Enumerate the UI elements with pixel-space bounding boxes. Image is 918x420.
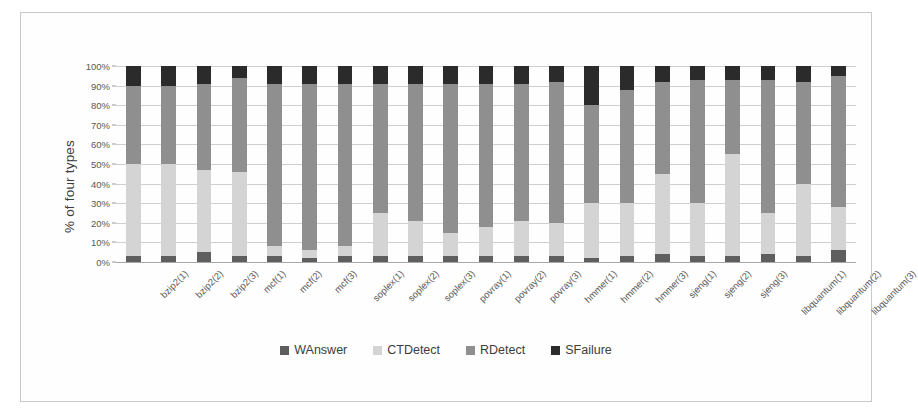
bar-segment-CTDetect[interactable] (796, 184, 811, 257)
bar-segment-CTDetect[interactable] (514, 221, 529, 256)
bar-povray(2)[interactable] (479, 66, 494, 262)
bar-segment-SFailure[interactable] (690, 66, 705, 80)
bar-segment-CTDetect[interactable] (655, 174, 670, 254)
bar-segment-SFailure[interactable] (197, 66, 212, 84)
legend-item-SFailure[interactable]: SFailure (551, 343, 612, 357)
bar-segment-CTDetect[interactable] (620, 203, 635, 256)
bar-povray(3)[interactable] (514, 66, 529, 262)
bar-segment-SFailure[interactable] (267, 66, 282, 84)
bar-segment-WAnswer[interactable] (267, 256, 282, 262)
bar-segment-RDetect[interactable] (408, 84, 423, 221)
bar-segment-CTDetect[interactable] (161, 164, 176, 256)
bar-segment-WAnswer[interactable] (655, 254, 670, 262)
bar-segment-SFailure[interactable] (126, 66, 141, 86)
bar-segment-WAnswer[interactable] (549, 256, 564, 262)
bar-segment-SFailure[interactable] (302, 66, 317, 84)
bar-segment-SFailure[interactable] (796, 66, 811, 82)
bar-segment-CTDetect[interactable] (725, 154, 740, 256)
bar-segment-SFailure[interactable] (161, 66, 176, 86)
bar-povray(1)[interactable] (443, 66, 458, 262)
bar-segment-SFailure[interactable] (584, 66, 599, 105)
bar-segment-CTDetect[interactable] (338, 246, 353, 256)
bar-libquantum(3)[interactable] (831, 66, 846, 262)
bar-segment-WAnswer[interactable] (514, 256, 529, 262)
bar-segment-WAnswer[interactable] (302, 258, 317, 262)
bar-segment-CTDetect[interactable] (267, 246, 282, 256)
bar-segment-RDetect[interactable] (197, 84, 212, 170)
bar-segment-SFailure[interactable] (443, 66, 458, 84)
bar-segment-RDetect[interactable] (655, 82, 670, 174)
bar-hmmer(1)[interactable] (549, 66, 564, 262)
bar-sjeng(2)[interactable] (690, 66, 705, 262)
legend-item-RDetect[interactable]: RDetect (466, 343, 525, 357)
bar-segment-WAnswer[interactable] (831, 250, 846, 262)
bar-segment-RDetect[interactable] (126, 86, 141, 164)
bar-segment-WAnswer[interactable] (725, 256, 740, 262)
bar-soplex(3)[interactable] (408, 66, 423, 262)
bar-segment-WAnswer[interactable] (338, 256, 353, 262)
bar-segment-WAnswer[interactable] (761, 254, 776, 262)
bar-segment-RDetect[interactable] (373, 84, 388, 213)
bar-soplex(1)[interactable] (338, 66, 353, 262)
bar-segment-WAnswer[interactable] (620, 256, 635, 262)
bar-segment-WAnswer[interactable] (796, 256, 811, 262)
bar-segment-RDetect[interactable] (831, 76, 846, 207)
bar-segment-RDetect[interactable] (796, 82, 811, 184)
bar-segment-RDetect[interactable] (549, 82, 564, 223)
bar-segment-RDetect[interactable] (302, 84, 317, 251)
bar-segment-SFailure[interactable] (338, 66, 353, 84)
bar-segment-WAnswer[interactable] (197, 252, 212, 262)
bar-segment-WAnswer[interactable] (161, 256, 176, 262)
bar-bzip2(2)[interactable] (161, 66, 176, 262)
legend-item-CTDetect[interactable]: CTDetect (373, 343, 440, 357)
legend-item-WAnswer[interactable]: WAnswer (280, 343, 347, 357)
bar-hmmer(2)[interactable] (584, 66, 599, 262)
bar-segment-CTDetect[interactable] (408, 221, 423, 256)
bar-sjeng(1)[interactable] (655, 66, 670, 262)
bar-segment-WAnswer[interactable] (443, 256, 458, 262)
bar-segment-WAnswer[interactable] (126, 256, 141, 262)
bar-segment-CTDetect[interactable] (126, 164, 141, 256)
bar-segment-CTDetect[interactable] (197, 170, 212, 252)
bar-segment-RDetect[interactable] (232, 78, 247, 172)
bar-segment-CTDetect[interactable] (479, 227, 494, 256)
bar-sjeng(3)[interactable] (725, 66, 740, 262)
bar-segment-CTDetect[interactable] (373, 213, 388, 256)
bar-segment-WAnswer[interactable] (690, 256, 705, 262)
bar-segment-SFailure[interactable] (620, 66, 635, 90)
bar-segment-SFailure[interactable] (655, 66, 670, 82)
bar-segment-RDetect[interactable] (479, 84, 494, 227)
bar-segment-WAnswer[interactable] (584, 258, 599, 262)
bar-segment-SFailure[interactable] (479, 66, 494, 84)
bar-segment-RDetect[interactable] (690, 80, 705, 203)
bar-segment-RDetect[interactable] (338, 84, 353, 247)
bar-segment-SFailure[interactable] (232, 66, 247, 78)
bar-segment-RDetect[interactable] (761, 80, 776, 213)
bar-segment-RDetect[interactable] (584, 105, 599, 203)
bar-segment-WAnswer[interactable] (232, 256, 247, 262)
bar-segment-CTDetect[interactable] (232, 172, 247, 256)
bar-segment-CTDetect[interactable] (302, 250, 317, 258)
bar-segment-RDetect[interactable] (267, 84, 282, 247)
bar-segment-CTDetect[interactable] (831, 207, 846, 250)
bar-segment-SFailure[interactable] (514, 66, 529, 84)
bar-segment-CTDetect[interactable] (761, 213, 776, 254)
bar-mcf(2)[interactable] (267, 66, 282, 262)
bar-segment-SFailure[interactable] (831, 66, 846, 76)
bar-segment-RDetect[interactable] (443, 84, 458, 233)
bar-libquantum(2)[interactable] (796, 66, 811, 262)
bar-segment-SFailure[interactable] (549, 66, 564, 82)
bar-segment-WAnswer[interactable] (373, 256, 388, 262)
bar-segment-RDetect[interactable] (514, 84, 529, 221)
bar-segment-RDetect[interactable] (725, 80, 740, 154)
bar-segment-RDetect[interactable] (620, 90, 635, 204)
bar-segment-SFailure[interactable] (408, 66, 423, 84)
bar-segment-CTDetect[interactable] (549, 223, 564, 256)
bar-segment-RDetect[interactable] (161, 86, 176, 164)
bar-bzip2(3)[interactable] (197, 66, 212, 262)
bar-segment-CTDetect[interactable] (584, 203, 599, 258)
bar-libquantum(1)[interactable] (761, 66, 776, 262)
bar-mcf(3)[interactable] (302, 66, 317, 262)
bar-segment-CTDetect[interactable] (443, 233, 458, 257)
bar-segment-SFailure[interactable] (761, 66, 776, 80)
